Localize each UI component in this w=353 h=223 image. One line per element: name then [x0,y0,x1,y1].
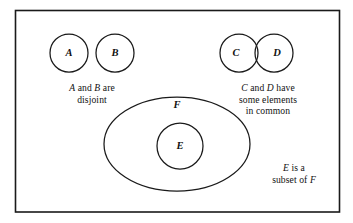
caption-ab-line1: A and B are [32,82,152,94]
caption-cd-mid: and [248,82,267,93]
caption-cd-line1: C and D have [206,82,330,94]
caption-cd-line3: in common [206,105,330,117]
caption-ef-pre: subset of [272,174,310,185]
caption-ab-mid: and [75,82,94,93]
caption-ab-post: are [100,82,115,93]
caption-ef-line2: subset of F [248,174,340,186]
set-label-c: C [232,47,240,58]
caption-ab-line2: disjoint [32,94,152,106]
caption-a-b-disjoint: A and B are disjoint [32,82,152,105]
caption-e-subset-f: E is a subset of F [248,162,340,185]
caption-ef-line1: E is a [248,162,340,174]
set-label-d: D [272,47,281,58]
caption-cd-post: have [274,82,295,93]
caption-cd-line2: some elements [206,94,330,106]
caption-cd-italic-d: D [267,82,274,93]
set-label-e: E [175,140,183,151]
set-label-b: B [110,47,118,58]
caption-ef-italic-f: F [310,174,316,185]
set-label-f: F [172,99,180,110]
set-label-a: A [64,47,72,58]
caption-ef-post: is a [289,162,305,173]
figure-page: A B C D F E A and B are disjoint C and D… [0,0,353,223]
caption-c-d-intersect: C and D have some elements in common [206,82,330,117]
